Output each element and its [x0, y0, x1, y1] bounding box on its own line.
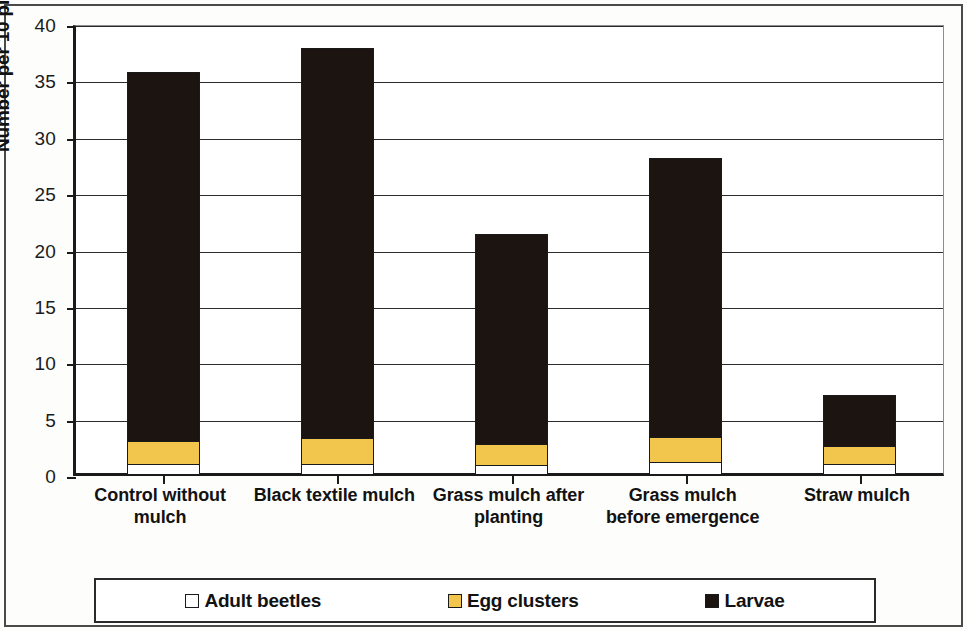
- legend-entry[interactable]: Adult beetles: [185, 590, 321, 612]
- y-axis-tick: [67, 195, 76, 197]
- y-axis-tick-label: 10: [4, 353, 56, 375]
- plot-area: 0510152025303540: [73, 25, 944, 476]
- y-axis-tick-label: 0: [4, 466, 56, 488]
- x-axis-label-line: Black textile mulch: [241, 485, 427, 507]
- legend-entry[interactable]: Egg clusters: [448, 590, 579, 612]
- bar-stack[interactable]: [823, 395, 896, 473]
- y-gridline: [76, 139, 943, 140]
- y-gridline: [76, 195, 943, 196]
- x-axis-tick: [686, 473, 688, 484]
- bar-segment-adult-beetles[interactable]: [475, 465, 548, 474]
- y-axis-tick-label: 5: [4, 410, 56, 432]
- chart-figure: Number per 10 plants 0510152025303540 Co…: [0, 0, 967, 631]
- bar-segment-adult-beetles[interactable]: [823, 464, 896, 474]
- bar-segment-larvae[interactable]: [475, 234, 548, 446]
- bar-stack[interactable]: [301, 48, 374, 473]
- bar-segment-larvae[interactable]: [823, 395, 896, 447]
- bar-segment-egg-clusters[interactable]: [649, 437, 722, 464]
- y-axis-tick: [67, 308, 76, 310]
- bar-segment-adult-beetles[interactable]: [127, 464, 200, 474]
- y-axis-tick: [67, 26, 76, 28]
- bar-segment-egg-clusters[interactable]: [475, 444, 548, 467]
- x-axis-tick: [860, 473, 862, 484]
- y-axis-tick: [67, 364, 76, 366]
- bar-segment-larvae[interactable]: [127, 72, 200, 443]
- bar-stack[interactable]: [649, 158, 722, 473]
- x-axis-label: Black textile mulch: [241, 485, 427, 507]
- y-axis-tick: [67, 139, 76, 141]
- legend-label: Larvae: [724, 590, 784, 612]
- y-axis-tick: [67, 252, 76, 254]
- bar-segment-egg-clusters[interactable]: [301, 438, 374, 466]
- y-gridline: [76, 82, 943, 83]
- y-axis-tick-label: 20: [4, 241, 56, 263]
- bar-segment-egg-clusters[interactable]: [127, 441, 200, 466]
- y-axis-tick-label: 30: [4, 128, 56, 150]
- x-axis-label-line: planting: [415, 507, 601, 529]
- x-axis-label-line: Grass mulch: [590, 485, 776, 507]
- bar-segment-larvae[interactable]: [649, 158, 722, 438]
- y-axis-tick-label: 35: [4, 71, 56, 93]
- x-axis-label: Grass mulch afterplanting: [415, 485, 601, 529]
- legend-label: Egg clusters: [467, 590, 579, 612]
- legend-swatch-icon: [185, 594, 199, 608]
- bar-segment-adult-beetles[interactable]: [301, 464, 374, 474]
- bar-stack[interactable]: [127, 72, 200, 473]
- x-axis-label-line: Grass mulch after: [415, 485, 601, 507]
- y-gridline: [76, 26, 943, 27]
- x-axis-tick: [337, 473, 339, 484]
- bar-segment-adult-beetles[interactable]: [649, 462, 722, 474]
- x-axis-label-line: Control without: [67, 485, 253, 507]
- y-axis-tick: [67, 477, 76, 479]
- legend-entry[interactable]: Larvae: [705, 590, 784, 612]
- legend-label: Adult beetles: [204, 590, 321, 612]
- x-axis-label-line: Straw mulch: [764, 485, 950, 507]
- y-axis-tick-label: 15: [4, 297, 56, 319]
- x-axis-tick: [163, 473, 165, 484]
- y-axis-tick: [67, 82, 76, 84]
- x-axis-label: Control withoutmulch: [67, 485, 253, 529]
- y-axis-tick-label: 40: [4, 15, 56, 37]
- chart-legend: Adult beetlesEgg clustersLarvae: [94, 578, 876, 623]
- x-axis-label-line: before emergence: [590, 507, 776, 529]
- legend-swatch-icon: [448, 594, 462, 608]
- bar-segment-larvae[interactable]: [301, 48, 374, 439]
- y-axis-tick-label: 25: [4, 184, 56, 206]
- y-axis-tick: [67, 421, 76, 423]
- x-axis-label: Grass mulchbefore emergence: [590, 485, 776, 529]
- x-axis-tick: [512, 473, 514, 484]
- bar-stack[interactable]: [475, 234, 548, 473]
- x-axis-label-line: mulch: [67, 507, 253, 529]
- x-axis-label: Straw mulch: [764, 485, 950, 507]
- bar-segment-egg-clusters[interactable]: [823, 446, 896, 466]
- legend-swatch-icon: [705, 594, 719, 608]
